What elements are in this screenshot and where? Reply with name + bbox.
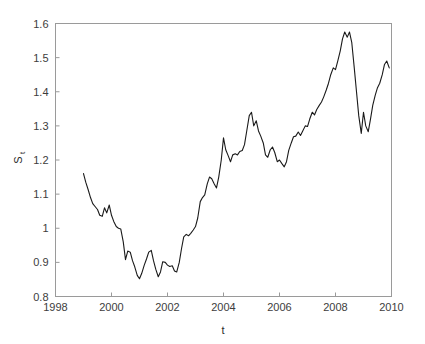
y-tick-label: 0.9 (33, 256, 48, 268)
y-tick-label: 1.5 (33, 52, 48, 64)
x-tick-label: 2008 (323, 301, 347, 313)
figure-canvas: 1998200020022004200620082010 0.80.911.11… (0, 0, 425, 344)
y-tick-label: 1 (42, 222, 48, 234)
x-tick-label: 2000 (99, 301, 123, 313)
y-axis-title: S (12, 156, 24, 163)
x-tick-label: 2006 (267, 301, 291, 313)
y-tick-label: 1.4 (33, 86, 48, 98)
y-tick-label: 1.2 (33, 154, 48, 166)
x-axis-title: t (221, 324, 224, 336)
x-tick-label: 2004 (211, 301, 235, 313)
y-tick-label: 1.1 (33, 188, 48, 200)
x-tick-label: 2010 (379, 301, 403, 313)
y-tick-label: 1.3 (33, 120, 48, 132)
chart-background (0, 0, 425, 344)
x-tick-label: 2002 (155, 301, 179, 313)
y-axis-tick-labels: 0.80.911.11.21.31.41.51.6 (33, 18, 48, 303)
y-tick-label: 0.8 (33, 291, 48, 303)
line-chart: 1998200020022004200620082010 0.80.911.11… (0, 0, 425, 344)
y-tick-label: 1.6 (33, 18, 48, 30)
